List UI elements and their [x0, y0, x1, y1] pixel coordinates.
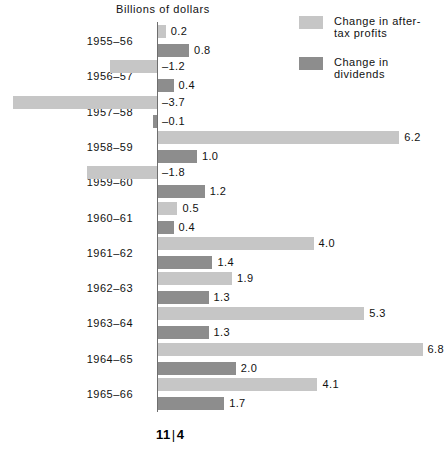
legend-item[interactable]: Change in dividends: [299, 56, 439, 80]
bar-value-label: 4.1: [322, 378, 339, 391]
bar-profits: [158, 343, 423, 356]
bar-value-label: 6.8: [428, 343, 444, 356]
legend-label: Change in dividends: [334, 56, 434, 80]
bar-profits: [158, 378, 317, 391]
bar-dividends: [158, 326, 209, 339]
bar-profits: [87, 166, 157, 179]
chart-container: Billions of dollars 1955–560.20.81956–57…: [0, 0, 444, 450]
year-label: 1962–63: [13, 282, 133, 294]
legend-swatch-profits: [299, 16, 323, 29]
bar-profits: [158, 272, 232, 285]
year-label: 1960–61: [13, 212, 133, 224]
year-label: 1955–56: [13, 35, 133, 47]
year-label: 1958–59: [13, 141, 133, 153]
bar-value-label: –0.1: [162, 115, 185, 128]
year-label: 1965–66: [13, 388, 133, 400]
bar-dividends: [158, 362, 236, 375]
bar-profits: [158, 307, 364, 320]
footer-page-number: 11: [156, 427, 171, 442]
bar-profits: [110, 60, 157, 73]
bar-dividends: [158, 79, 174, 92]
bar-dividends: [158, 150, 197, 163]
legend-item[interactable]: Change in after-tax profits: [299, 15, 439, 39]
year-label: 1964–65: [13, 353, 133, 365]
bar-value-label: 0.2: [171, 25, 188, 38]
bar-dividends: [158, 256, 212, 269]
bar-value-label: 1.7: [229, 397, 246, 410]
bar-dividends: [153, 115, 157, 128]
footer-page-mark: 11|4: [156, 427, 184, 442]
legend-swatch-dividends: [299, 57, 323, 70]
year-label: 1961–62: [13, 247, 133, 259]
year-label: 1963–64: [13, 317, 133, 329]
bar-value-label: –1.2: [162, 60, 185, 73]
bar-profits: [158, 237, 314, 250]
bar-value-label: 1.2: [210, 185, 227, 198]
bar-value-label: 1.3: [214, 291, 231, 304]
bar-dividends: [158, 185, 205, 198]
bar-value-label: 1.4: [217, 256, 234, 269]
bar-value-label: 0.8: [194, 44, 211, 57]
bar-dividends: [158, 44, 189, 57]
bar-value-label: 0.4: [179, 221, 196, 234]
bar-value-label: 2.0: [241, 362, 258, 375]
bar-value-label: 1.3: [214, 326, 231, 339]
bar-dividends: [158, 397, 224, 410]
footer-section-number: 4: [177, 427, 185, 442]
bar-value-label: 1.0: [202, 150, 219, 163]
bar-dividends: [158, 221, 174, 234]
bar-value-label: –3.7: [162, 96, 185, 109]
bar-value-label: 6.2: [404, 131, 421, 144]
bar-value-label: –1.8: [162, 166, 185, 179]
legend-label: Change in after-tax profits: [334, 15, 434, 39]
bar-value-label: 0.5: [182, 202, 199, 215]
bar-profits: [13, 96, 157, 109]
bar-value-label: 5.3: [369, 307, 386, 320]
bar-value-label: 0.4: [179, 79, 196, 92]
bar-profits: [158, 202, 177, 215]
bar-dividends: [158, 291, 209, 304]
bar-value-label: 1.9: [237, 272, 254, 285]
bar-profits: [158, 25, 166, 38]
chart-legend: Change in after-tax profitsChange in div…: [299, 15, 439, 97]
bar-profits: [158, 131, 399, 144]
bar-value-label: 4.0: [319, 237, 336, 250]
